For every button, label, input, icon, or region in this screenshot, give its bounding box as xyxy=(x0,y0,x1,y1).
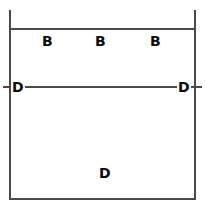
top-horizontal-line xyxy=(9,28,196,30)
diagram-canvas: B B B D D D xyxy=(0,0,205,209)
middle-dimension-line xyxy=(3,86,202,88)
left-vertical-edge-line xyxy=(9,10,11,200)
top-label-b-3: B xyxy=(150,34,161,48)
dimension-label-d-left: D xyxy=(11,79,25,95)
top-label-b-2: B xyxy=(95,34,106,48)
right-vertical-edge-line xyxy=(194,10,196,200)
bottom-horizontal-line xyxy=(9,198,196,200)
top-label-b-1: B xyxy=(42,34,53,48)
area-label-d: D xyxy=(99,166,111,180)
dimension-label-d-right: D xyxy=(177,79,191,95)
